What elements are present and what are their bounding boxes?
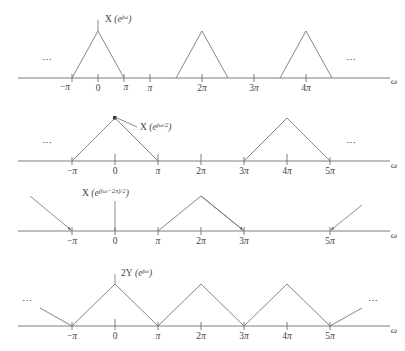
plot-4-ticklabel-0: 0 <box>113 331 118 341</box>
plot-4-curve-label: 2Y (ejω) <box>121 267 152 279</box>
plot-1-triangle-0 <box>72 31 124 78</box>
plot-3-label-exp: j(ω−2π)/2 <box>98 187 127 195</box>
plot-1-ticklabel-pi-over-2: π 2 <box>121 82 131 92</box>
plot-3-ticklabel-0: 0 <box>113 236 118 246</box>
plot-4-spectrum-2Y-ejw: 2Y (ejω) ⋯ ⋯ −π 0 π 2π 3π 4π 5π ω <box>0 264 405 350</box>
signal-spectra-figure: X (ejω) ⋯ ⋯ −π 2 0 π 2 π 2π 3π 4π ω <box>0 0 405 351</box>
plot-2-axis-name: ω <box>391 160 397 170</box>
plot-1-triangle-4pi <box>280 31 332 78</box>
plot-2-ellipsis-left: ⋯ <box>42 137 53 148</box>
plot-3-curve-label: X (ej(ω−2π)/2) <box>82 187 129 199</box>
plot-3-arrow-right <box>331 205 362 230</box>
plot-1-ticklabel-4pi: 4π <box>301 83 311 92</box>
plot-3-arrow-mid <box>201 196 243 230</box>
plot-1-curve-label: X (ejω) <box>105 13 131 25</box>
plot-1-triangle-2pi <box>176 31 228 78</box>
plot-4-triangular-wave <box>40 284 362 326</box>
plot-4-ticklabel-3pi: 3π <box>239 331 249 341</box>
plot-1-ticklabel-3pi: 3π <box>249 83 259 92</box>
plot-4-ellipsis-right: ⋯ <box>368 295 379 306</box>
plot-4-label-close: ) <box>148 268 152 279</box>
plot-1-ticklabel-pi-over-2-num: π <box>124 82 129 92</box>
plot-4-label-fn: 2Y <box>121 268 133 278</box>
plot-1-ellipsis-right: ⋯ <box>346 54 357 65</box>
plot-4-ellipsis-left: ⋯ <box>22 295 33 306</box>
plot-2-label-exp: jω/2 <box>156 121 169 128</box>
plot-4-ticklabel-4pi: 4π <box>282 331 292 341</box>
plot-2-ticklabel-4pi: 4π <box>282 166 292 176</box>
plot-2-ticklabel-5pi: 5π <box>325 166 335 176</box>
plot-4-ticklabel--pi: −π <box>67 331 77 341</box>
plot-2-ticklabel-3pi: 3π <box>239 166 249 176</box>
plot-2-spectrum-X-ejw-over-2: X (ejω/2) ⋯ ⋯ −π 0 π 2π 3π 4π 5π ω <box>0 96 405 181</box>
plot-2-curve-label: X (ejω/2) <box>140 121 171 133</box>
plot-1-ticklabel-2pi: 2π <box>197 83 207 92</box>
plot-1-spectrum-X-ejw: X (ejω) ⋯ ⋯ −π 2 0 π 2 π 2π 3π 4π ω <box>0 0 405 92</box>
plot-2-ticklabel-0: 0 <box>113 166 118 176</box>
plot-2-ticklabel--pi: −π <box>67 166 77 176</box>
plot-2-ticklabel-2pi: 2π <box>196 166 206 176</box>
plot-3-ticklabel-3pi: 3π <box>239 236 249 246</box>
plot-3-label-close: ) <box>125 188 129 199</box>
plot-1-ellipsis-left: ⋯ <box>42 54 53 65</box>
plot-3-arrow-left <box>30 196 71 230</box>
plot-1-label-close: ) <box>127 14 131 25</box>
plot-4-ticklabel-5pi: 5π <box>325 331 335 341</box>
plot-2-ellipsis-right: ⋯ <box>346 137 357 148</box>
plot-4-ticklabel-pi: π <box>156 331 161 341</box>
plot-3-ticklabel-5pi: 5π <box>325 236 335 246</box>
plot-1-ticklabel-0: 0 <box>96 83 101 92</box>
plot-3-ticklabel--pi: −π <box>67 236 77 246</box>
plot-2-label-close: ) <box>167 122 171 133</box>
plot-3-axis-name: ω <box>391 230 397 240</box>
plot-3-ticklabel-2pi: 2π <box>196 236 206 246</box>
plot-1-ticklabel--pi-over-2: −π 2 <box>60 82 79 92</box>
plot-3-ticklabel-pi: π <box>156 236 161 246</box>
plot-4-ticklabel-2pi: 2π <box>196 331 206 341</box>
plot-1-ticklabel-pi: π <box>148 83 153 92</box>
plot-3-triangle-2pi <box>158 196 244 231</box>
plot-1-axis-name: ω <box>391 76 397 86</box>
plot-3-spectrum-X-shifted: X (ej(ω−2π)/2) −π 0 π 2π 3π 5π ω <box>0 183 405 265</box>
plot-2-peak-marker <box>113 116 117 120</box>
plot-1-ticklabel--pi-over-2-num: −π <box>60 82 70 92</box>
plot-4-axis-name: ω <box>391 325 397 335</box>
plot-2-ticklabel-pi: π <box>156 166 161 176</box>
